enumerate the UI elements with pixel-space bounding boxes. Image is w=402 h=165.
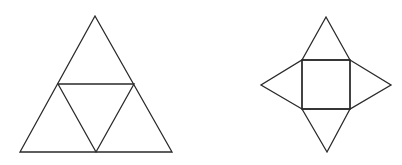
top-triangle [302,17,350,60]
square-pyramid-net [261,17,391,152]
inner-triangle [58,84,134,152]
base-square [302,60,350,109]
right-triangle [350,60,391,109]
diagram-canvas [0,0,402,165]
bottom-triangle [302,109,350,152]
tetrahedron-net [20,16,172,152]
left-triangle [261,60,302,109]
